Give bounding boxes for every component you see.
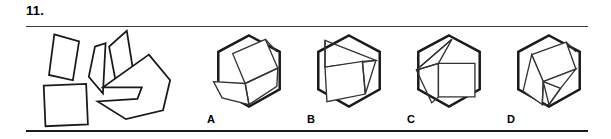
option-a[interactable]: A bbox=[198, 30, 298, 129]
option-a-figure[interactable] bbox=[201, 30, 297, 112]
rule-bottom-divider bbox=[26, 130, 588, 132]
piece-large-arrow bbox=[98, 55, 170, 120]
option-c[interactable]: C bbox=[398, 30, 498, 129]
option-b[interactable]: B bbox=[298, 30, 398, 129]
option-d-label: D bbox=[507, 113, 515, 125]
option-a-lower-trapezoid bbox=[213, 82, 249, 105]
option-b-label: B bbox=[307, 113, 315, 125]
piece-narrow-sliver-middle bbox=[89, 43, 106, 93]
piece-narrow-sliver-left bbox=[49, 34, 79, 80]
piece-square bbox=[44, 84, 88, 126]
option-d-figure[interactable] bbox=[501, 30, 597, 112]
option-b-tilted-square bbox=[325, 61, 365, 101]
rule-top-divider bbox=[26, 26, 588, 27]
option-b-figure[interactable] bbox=[301, 30, 397, 112]
question-item: 11. A bbox=[0, 0, 611, 139]
option-c-figure[interactable] bbox=[401, 30, 497, 112]
option-a-label: A bbox=[207, 113, 215, 125]
question-number: 11. bbox=[26, 3, 44, 18]
option-c-label: C bbox=[407, 113, 415, 125]
stimulus-scattered-pieces bbox=[30, 29, 190, 128]
figure-area: A B bbox=[26, 28, 588, 129]
option-d[interactable]: D bbox=[498, 30, 598, 129]
option-c-upright-square bbox=[438, 63, 474, 97]
